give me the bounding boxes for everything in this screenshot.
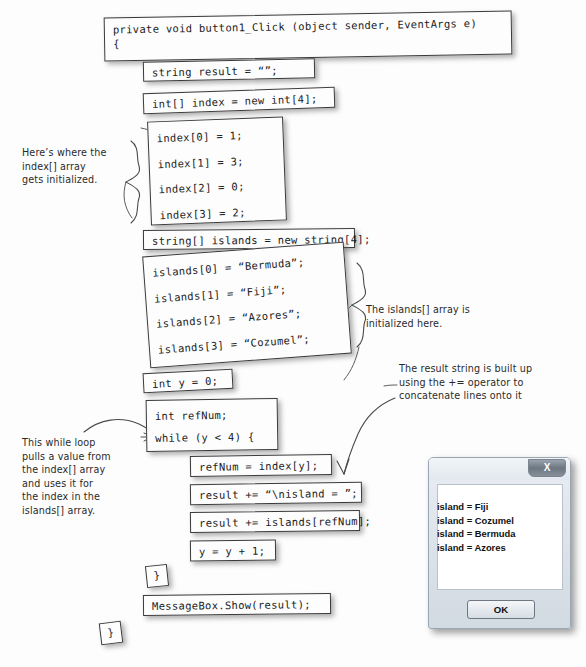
annotation-index-init: Here’s where the index[] array gets init… bbox=[22, 146, 130, 187]
annotation-while-loop: This while loop pulls a value from the i… bbox=[22, 436, 132, 518]
dialog-titlebar[interactable]: X bbox=[429, 458, 570, 480]
code-block-assign-refnum: refNum = index[y]; bbox=[190, 454, 332, 477]
code-block-increment-y: y = y + 1; bbox=[190, 539, 276, 561]
dialog-message-text: island = Fiji island = Cozumel island = … bbox=[437, 500, 515, 555]
code-block-append-label: result += “\nisland = ”; bbox=[190, 482, 362, 505]
code-block-declare-y: int y = 0; bbox=[143, 369, 234, 394]
arrow-result-build-head-b bbox=[344, 459, 349, 474]
messagebox-dialog[interactable]: X island = Fiji island = Cozumel island … bbox=[428, 457, 571, 629]
brace-islands-init bbox=[352, 263, 366, 347]
tick-result-build bbox=[384, 385, 397, 386]
code-block-declare-result: string result = “”; bbox=[143, 58, 315, 81]
code-block-declare-index: int[] index = new int[4]; bbox=[143, 87, 336, 115]
code-block-close-method: } bbox=[99, 621, 124, 646]
annotation-result-build: The result string is built up using the … bbox=[399, 362, 577, 403]
arrow-result-build-head-a bbox=[337, 461, 344, 474]
annotation-islands-init: The islands[] array is initialized here. bbox=[366, 303, 512, 330]
code-block-close-while: } bbox=[145, 564, 169, 588]
walkthrough-canvas: private void button1_Click (object sende… bbox=[0, 0, 586, 667]
close-icon[interactable]: X bbox=[528, 459, 566, 477]
brace-index-tail bbox=[124, 182, 132, 218]
code-block-append-island: result += islands[refNum]; bbox=[190, 510, 360, 533]
code-block-method-signature: private void button1_Click (object sende… bbox=[104, 10, 513, 61]
code-block-islands-init: islands[0] = “Bermuda”; islands[1] = “Fi… bbox=[142, 242, 352, 368]
ok-button[interactable]: OK bbox=[467, 600, 535, 619]
code-block-show-messagebox: MessageBox.Show(result); bbox=[143, 593, 331, 616]
code-block-index-init: index[0] = 1; index[1] = 3; index[2] = 0… bbox=[147, 116, 287, 225]
code-block-declare-refnum: int refNum; while (y < 4) { bbox=[146, 398, 279, 452]
arrow-result-build bbox=[344, 398, 395, 474]
